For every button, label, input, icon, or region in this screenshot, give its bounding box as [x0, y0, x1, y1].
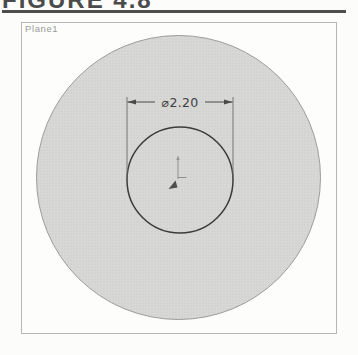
page: FIGURE 4.8 Plane1 [0, 0, 358, 355]
viewport-canvas[interactable]: Plane1 ⌀2.20 [21, 22, 337, 334]
heading-divider [2, 10, 346, 13]
plane-label: Plane1 [25, 23, 58, 34]
dimension-text[interactable]: ⌀2.20 [162, 95, 199, 110]
sketch-drawing: ⌀2.20 [22, 23, 336, 333]
